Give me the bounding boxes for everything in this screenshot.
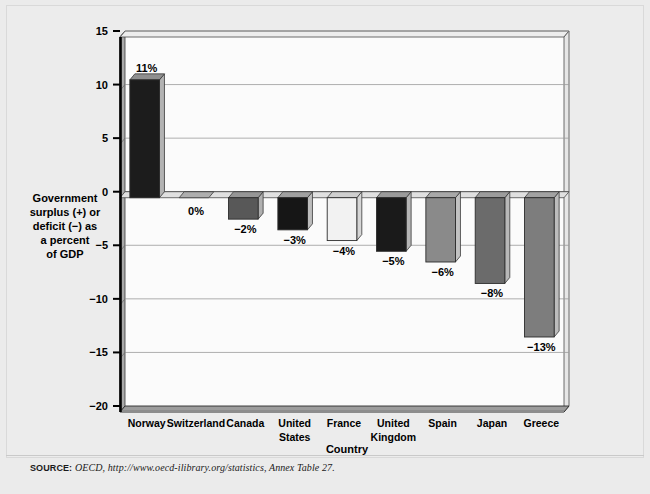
bar-japan (475, 192, 510, 284)
bar-canada (229, 192, 264, 219)
bar-front-face (130, 80, 160, 198)
y-axis-title-line: deficit (−) as (33, 220, 98, 232)
bar-united-states (278, 192, 313, 230)
bar-value-label: 0% (188, 205, 204, 217)
bar-side-face (455, 192, 460, 262)
y-tick-label: −5 (95, 239, 108, 251)
bar-front-face (475, 198, 505, 284)
bar-value-label: −2% (234, 223, 257, 235)
y-axis-title: Governmentsurplus (+) ordeficit (−) asa … (30, 192, 101, 260)
bar-spain (426, 192, 461, 262)
bar-top-face (426, 192, 461, 198)
x-category-label: France (327, 417, 362, 429)
bar-norway (130, 74, 165, 198)
bar-greece (525, 192, 560, 337)
bar-side-face (554, 192, 559, 337)
x-axis-category-labels: NorwaySwitzerlandCanadaUnitedStatesFranc… (128, 417, 560, 443)
x-axis-title: Country (326, 443, 369, 455)
bar-value-label: −5% (382, 255, 405, 267)
bar-front-face (377, 198, 407, 252)
bar-front-face (327, 198, 357, 241)
y-axis-tick-labels: 151050−5−10−15−20 (89, 25, 108, 412)
x-category-label: States (279, 431, 311, 443)
bar-top-face (229, 192, 264, 198)
x-category-label: Japan (477, 417, 507, 429)
y-axis-title-line: Government (33, 192, 98, 204)
bar-value-label: −6% (432, 266, 455, 278)
bar-front-face (278, 198, 308, 230)
bar-top-face (377, 192, 412, 198)
x-category-label: Canada (226, 417, 264, 429)
bar-side-face (505, 192, 510, 284)
y-tick-label: 15 (96, 25, 108, 37)
bar-top-face (327, 192, 362, 198)
y-tick-label: 0 (102, 186, 108, 198)
bar-side-face (357, 192, 362, 241)
y-axis-title-line: of GDP (46, 248, 83, 260)
bar-top-face (179, 192, 214, 198)
x-category-label: Kingdom (371, 431, 417, 443)
y-axis-ticks (113, 31, 120, 406)
y-tick-label: −15 (89, 346, 108, 358)
bar-value-label: 11% (136, 62, 158, 74)
bar-side-face (159, 74, 164, 198)
figure-bottom-rule (6, 455, 644, 456)
x-category-label: United (278, 417, 311, 429)
chart-figure-card: 151050−5−10−15−20 Governmentsurplus (+) … (6, 5, 644, 458)
bar-value-label: −3% (284, 234, 307, 246)
y-tick-label: 10 (96, 79, 108, 91)
bar-france (327, 192, 362, 241)
bar-value-label: −13% (527, 341, 556, 353)
bar-front-face (229, 198, 259, 219)
bar-top-face (278, 192, 313, 198)
source-text: OECD, http://www.oecd-ilibrary.org/stati… (75, 462, 335, 473)
y-tick-label: 5 (102, 132, 108, 144)
x-category-label: United (377, 417, 410, 429)
y-axis-title-line: surplus (+) or (30, 206, 101, 218)
bar-value-label: −8% (481, 287, 504, 299)
y-axis-title-line: a percent (41, 234, 90, 246)
plot-floor-front (120, 410, 564, 413)
bar-chart-3d: 151050−5−10−15−20 Governmentsurplus (+) … (7, 6, 645, 459)
bar-switzerland (179, 192, 214, 198)
y-tick-label: −10 (89, 293, 108, 305)
figure-page: 151050−5−10−15−20 Governmentsurplus (+) … (0, 0, 650, 494)
x-category-label: Switzerland (167, 417, 225, 429)
x-category-label: Greece (524, 417, 560, 429)
x-category-label: Spain (428, 417, 457, 429)
bar-top-face (475, 192, 510, 198)
bar-united-kingdom (377, 192, 412, 252)
bar-top-face (130, 74, 165, 80)
bar-value-label: −4% (333, 245, 356, 257)
bar-side-face (406, 192, 411, 252)
y-tick-label: −20 (89, 400, 108, 412)
bar-front-face (525, 198, 555, 337)
source-note: SOURCE: OECD, http://www.oecd-ilibrary.o… (30, 462, 630, 473)
bar-front-face (426, 198, 456, 262)
source-label: SOURCE: (30, 463, 72, 473)
x-category-label: Norway (128, 417, 166, 429)
bar-top-face (525, 192, 560, 198)
